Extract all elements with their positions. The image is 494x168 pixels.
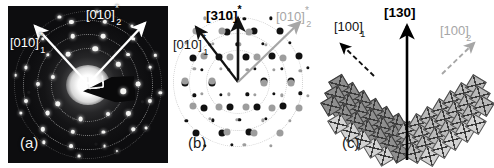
diffraction-spot [69, 144, 73, 148]
diffraction-spot [78, 155, 81, 158]
spot-variant-2 [182, 77, 189, 84]
beam-stopper-notch [86, 76, 104, 91]
spot-variant-1 [307, 66, 310, 69]
label-axis-100-1: [100]1 [334, 20, 368, 33]
spot-variant-1 [200, 104, 207, 111]
arrow-100-2 [442, 43, 474, 74]
diffraction-spot [45, 111, 50, 116]
diffraction-spot [131, 37, 135, 41]
diffraction-spot [78, 117, 83, 122]
spot-variant-1 [253, 103, 260, 110]
spot-variant-2 [208, 78, 215, 85]
spot-variant-2 [277, 130, 284, 137]
diffraction-spot [145, 126, 148, 129]
spot-variant-2 [269, 104, 276, 111]
spot-variant-2 [189, 103, 196, 110]
diffraction-spot [136, 82, 141, 87]
label-axis-010-1: [010]*1 [173, 38, 211, 51]
diffraction-spot [106, 112, 110, 116]
diffraction-spot [148, 66, 151, 69]
diffraction-spot [66, 51, 71, 56]
label-axis-310-star: [310]* [206, 9, 242, 23]
arrow-100-1 [341, 44, 374, 76]
diffraction-spot [127, 53, 131, 57]
spot-variant-1 [189, 54, 196, 61]
spot-variant-1 [216, 54, 223, 61]
spot-variant-1 [269, 17, 272, 20]
spot-variant-2 [295, 105, 302, 112]
spot-variant-2 [287, 80, 294, 87]
label-axis-130: [130] [384, 6, 416, 20]
spot-variant-2 [261, 79, 268, 86]
spot-variant-2 [280, 54, 287, 61]
spot-variant-2 [269, 144, 272, 147]
label-axis-010-2: [010]*2 [276, 10, 314, 23]
diffraction-spot [70, 34, 75, 39]
spot-variant-1 [269, 53, 276, 60]
panel-b: [310]* [010]*1 [010]*2 (b) [172, 0, 324, 168]
spot-variant-2 [216, 103, 223, 110]
spot-variant-1 [227, 104, 234, 111]
spot-variant-1 [295, 52, 302, 59]
spot-variant-2 [253, 54, 260, 61]
panel-letter-c: (c) [342, 134, 360, 151]
label-axis-010-2: [010]*2 [86, 8, 124, 21]
spot-variant-1 [280, 103, 287, 110]
panel-letter-b: (b) [188, 134, 206, 151]
spot-variant-2 [245, 28, 252, 35]
label-axis-100-2: [100]2 [440, 24, 474, 37]
diffraction-spot [14, 74, 17, 77]
spot-variant-2 [227, 53, 234, 60]
spot-variant-1 [277, 27, 284, 34]
diffraction-spot [103, 144, 106, 147]
panel-c: [100]1 [130] [100]2 (c) [324, 0, 490, 168]
diffraction-spot [101, 34, 106, 39]
diffraction-spot [131, 127, 135, 131]
spot-variant-2 [219, 28, 226, 35]
diffraction-spot [93, 46, 99, 52]
panel-a: [010]*1 [010]*2 (a) [0, 0, 172, 168]
spot-variant-2 [288, 119, 291, 122]
spot-variant-1 [242, 53, 249, 60]
spot-variant-2 [242, 104, 249, 111]
spot-variant-2 [250, 129, 257, 136]
label-axis-010-1: [010]*1 [10, 36, 48, 49]
spot-variant-2 [224, 129, 231, 136]
spot-variant-2 [192, 27, 199, 34]
panel-letter-a: (a) [20, 134, 38, 151]
spot-variant-2 [307, 94, 310, 97]
